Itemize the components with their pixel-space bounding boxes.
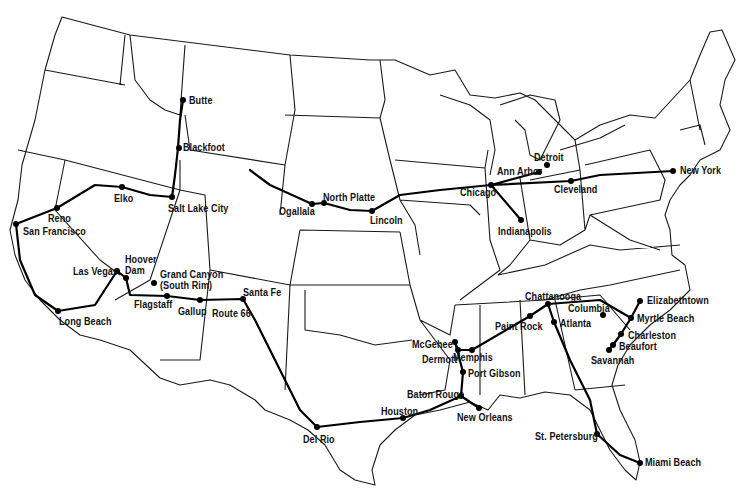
city-dot-elko xyxy=(119,184,125,190)
city-label-chattanooga: Chattanooga xyxy=(525,291,581,302)
city-dot-elizabethtown xyxy=(637,298,643,304)
city-label-miami-beach: Miami Beach xyxy=(645,457,701,468)
city-label-butte: Butte xyxy=(189,95,213,106)
city-dot-mcgehee xyxy=(452,339,458,345)
city-dot-long-beach xyxy=(55,308,61,314)
city-label-ann-arbor: Ann Arbor xyxy=(497,166,542,177)
city-label-cleveland: Cleveland xyxy=(554,184,597,195)
city-dot-grand-canyon xyxy=(151,280,157,286)
city-label-blackfoot: Blackfoot xyxy=(183,142,225,153)
map-graphic xyxy=(0,0,753,497)
city-label-memphis: Memphis xyxy=(453,352,493,363)
city-label-indianapolis: Indianapolis xyxy=(498,226,552,237)
city-label-gallup: Gallup xyxy=(178,306,207,317)
city-dot-paint-rock xyxy=(527,313,533,319)
city-dot-miami-beach xyxy=(637,460,643,466)
city-label-atlanta: Atlanta xyxy=(560,318,591,329)
state-lines xyxy=(18,35,705,395)
city-dot-salt-lake-city xyxy=(169,194,175,200)
city-dot-port-gibson xyxy=(460,369,466,375)
city-label-port-gibson: Port Gibson xyxy=(468,368,521,379)
city-label-new-york: New York xyxy=(680,165,721,176)
city-dot-reno xyxy=(54,205,60,211)
city-label-chicago: Chicago xyxy=(460,187,496,198)
us-outline xyxy=(10,17,735,485)
us-route-map: Butte Blackfoot Salt Lake City Elko Reno… xyxy=(0,0,753,497)
city-label-dermott: Dermott xyxy=(422,354,457,365)
city-dot-san-francisco xyxy=(13,221,19,227)
city-label-myrtle-beach: Myrtle Beach xyxy=(637,313,694,324)
city-label-paint-rock: Paint Rock xyxy=(495,321,543,332)
city-label-beaufort: Beaufort xyxy=(619,341,657,352)
city-label-elizabethtown: Elizabethtown xyxy=(647,295,709,306)
city-dot-charleston xyxy=(618,331,624,337)
city-dot-indianapolis xyxy=(518,217,524,223)
city-label-baton-rouge: Baton Rouge xyxy=(407,389,464,400)
city-label-long-beach: Long Beach xyxy=(59,316,112,327)
city-label-new-orleans: New Orleans xyxy=(457,412,513,423)
route-label-route-66: Route 66 xyxy=(212,308,251,319)
city-label-north-platte: North Platte xyxy=(323,192,375,203)
city-label-houston: Houston xyxy=(381,406,418,417)
city-label-santa-fe: Santa Fe xyxy=(243,287,281,298)
route-west xyxy=(16,100,479,427)
city-label-grand-canyon: Grand Canyon (South Rim) xyxy=(160,269,229,291)
city-label-ogallala: Ogallala xyxy=(279,206,315,217)
city-dot-myrtle-beach xyxy=(628,315,634,321)
city-label-las-vegas: Las Vegas xyxy=(73,266,118,277)
city-label-salt-lake-city: Salt Lake City xyxy=(168,203,228,214)
city-label-lincoln: Lincoln xyxy=(370,215,403,226)
city-dot-del-rio xyxy=(314,424,320,430)
city-label-flagstaff: Flagstaff xyxy=(134,299,172,310)
city-dot-blackfoot xyxy=(176,145,182,151)
city-label-san-francisco: San Francisco xyxy=(23,226,86,237)
city-dot-new-york xyxy=(670,168,676,174)
city-label-mcgehee: McGehee xyxy=(412,339,453,350)
city-label-st-petersburg: St. Petersburg xyxy=(535,431,598,442)
city-label-del-rio: Del Rio xyxy=(303,434,335,445)
city-dot-savannah xyxy=(606,347,612,353)
city-dot-gallup xyxy=(197,297,203,303)
city-label-columbia: Columbia xyxy=(568,303,610,314)
city-label-detroit: Detroit xyxy=(534,152,564,163)
city-dot-atlanta xyxy=(551,319,557,325)
city-dot-butte xyxy=(180,97,186,103)
city-label-savannah: Savannah xyxy=(591,355,634,366)
great-lakes xyxy=(440,95,625,175)
city-label-reno: Reno xyxy=(48,213,71,224)
city-label-elko: Elko xyxy=(114,193,133,204)
city-label-hoover-dam: Hoover Dam xyxy=(125,254,154,276)
